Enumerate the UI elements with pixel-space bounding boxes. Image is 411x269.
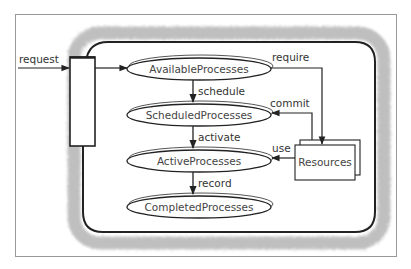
- available-processes-label: AvailableProcesses: [149, 63, 248, 75]
- scheduled-processes-label: ScheduledProcesses: [146, 109, 253, 121]
- use-label: use: [272, 142, 291, 154]
- activate-label: activate: [198, 131, 240, 143]
- active-processes-label: ActiveProcesses: [157, 155, 241, 167]
- schedule-label: schedule: [198, 85, 245, 97]
- node-resources[interactable]: Resources: [295, 140, 360, 180]
- completed-processes-label: CompletedProcesses: [144, 201, 253, 213]
- process-diagram: request AvailableProcesses ScheduledProc…: [0, 0, 411, 269]
- resources-label: Resources: [298, 156, 352, 168]
- require-label: require: [272, 51, 309, 63]
- record-label: record: [198, 177, 232, 189]
- queue-box: [70, 57, 95, 146]
- request-label: request: [19, 53, 59, 65]
- commit-label: commit: [270, 97, 310, 109]
